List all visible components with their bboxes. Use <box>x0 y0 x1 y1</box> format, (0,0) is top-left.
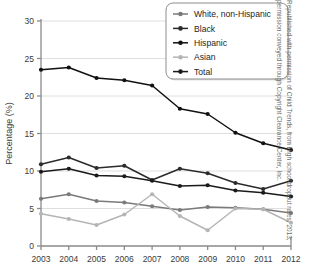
series-asian <box>39 192 293 232</box>
x-tick-label: 2006 <box>115 254 134 264</box>
data-point <box>67 155 71 159</box>
data-point <box>67 65 71 69</box>
data-point <box>39 170 43 174</box>
series-white-non-hispanic <box>39 192 293 215</box>
legend-marker-dot <box>178 12 183 17</box>
x-tick-label: 2009 <box>198 254 217 264</box>
data-point <box>233 188 237 192</box>
x-tick-label: 2004 <box>59 254 78 264</box>
data-point <box>122 164 126 168</box>
data-point <box>94 166 98 170</box>
data-point <box>150 192 154 196</box>
y-tick-label: 15 <box>25 129 35 139</box>
legend-label: Total <box>194 67 212 77</box>
data-series <box>39 65 293 232</box>
data-point <box>233 131 237 135</box>
y-axis-label: Percentage (%) <box>4 102 14 165</box>
data-point <box>178 214 182 218</box>
data-point <box>178 167 182 171</box>
y-axis-ticks: 051015202530 <box>25 16 41 251</box>
x-tick-label: 2010 <box>226 254 245 264</box>
data-point <box>150 204 154 208</box>
data-point <box>150 83 154 87</box>
data-point <box>67 167 71 171</box>
data-point <box>122 174 126 178</box>
series-line <box>41 194 291 213</box>
y-tick-label: 0 <box>29 241 34 251</box>
data-point <box>206 228 210 232</box>
x-tick-label: 2003 <box>32 254 51 264</box>
data-point <box>206 183 210 187</box>
x-tick-label: 2008 <box>170 254 189 264</box>
x-tick-label: 2005 <box>87 254 106 264</box>
legend-marker-dot <box>178 69 183 74</box>
data-point <box>178 107 182 111</box>
data-point <box>233 181 237 185</box>
series-line <box>41 169 291 197</box>
data-point <box>122 212 126 216</box>
data-point <box>206 112 210 116</box>
credit-attribution: Republished with permission of Child Tre… <box>257 0 296 270</box>
series-line <box>41 158 291 190</box>
data-point <box>206 205 210 209</box>
data-point <box>178 184 182 188</box>
chart-figure: 051015202530 200320042005200620072008200… <box>0 0 335 270</box>
data-point <box>39 68 43 72</box>
series-line <box>41 194 291 230</box>
legend-label: Black <box>194 24 216 34</box>
data-point <box>39 197 43 201</box>
data-point <box>67 217 71 221</box>
data-point <box>67 192 71 196</box>
data-point <box>122 200 126 204</box>
series-black <box>39 155 293 191</box>
data-point <box>178 208 182 212</box>
y-tick-label: 5 <box>29 204 34 214</box>
y-tick-label: 20 <box>25 91 35 101</box>
legend-marker-dot <box>178 55 183 60</box>
legend-label: Asian <box>194 52 216 62</box>
x-tick-label: 2007 <box>143 254 162 264</box>
legend-label: Hispanic <box>194 38 228 48</box>
data-point <box>122 78 126 82</box>
legend-marker-dot <box>178 41 183 46</box>
legend-marker-dot <box>178 26 183 31</box>
data-point <box>94 199 98 203</box>
y-tick-label: 10 <box>25 166 35 176</box>
data-point <box>206 171 210 175</box>
data-point <box>39 162 43 166</box>
data-point <box>39 212 43 216</box>
data-point <box>94 223 98 227</box>
y-tick-label: 30 <box>25 16 35 26</box>
data-point <box>233 206 237 210</box>
y-tick-label: 25 <box>25 54 35 64</box>
data-point <box>150 179 154 183</box>
data-point <box>94 173 98 177</box>
data-point <box>94 76 98 80</box>
